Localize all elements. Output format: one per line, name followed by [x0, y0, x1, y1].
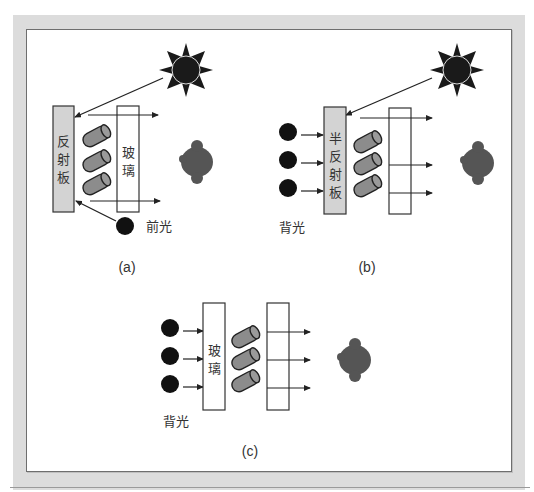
glass-label-1: 玻	[122, 145, 135, 160]
back-light-source-icon	[161, 347, 179, 365]
glass-label-2: 璃	[122, 163, 135, 178]
back-light-source-icon	[161, 319, 179, 337]
viewer-head-icon	[337, 338, 371, 382]
panel-b: 半 反 射 板 背光 (b)	[279, 43, 494, 275]
panel-c: 玻 璃 背光 (c)	[161, 303, 371, 459]
front-light-ray	[76, 201, 116, 221]
liquid-crystal-molecule-icon	[229, 324, 261, 350]
viewer-head-icon	[179, 140, 213, 184]
glass-plate	[389, 108, 411, 214]
liquid-crystal-molecule-icon	[351, 173, 383, 199]
liquid-crystal-molecule-icon	[80, 171, 112, 197]
sun-icon	[430, 43, 484, 97]
liquid-crystal-molecule-icon	[229, 346, 261, 372]
back-light-label: 背光	[163, 414, 189, 429]
reflector-label-3: 板	[57, 170, 70, 185]
liquid-crystal-molecule-icon	[80, 148, 112, 174]
back-light-source-icon	[279, 123, 297, 141]
back-light-source-icon	[279, 151, 297, 169]
caption-c: (c)	[242, 443, 258, 459]
reflector-label-1: 反	[57, 134, 70, 149]
glass-label-2: 璃	[208, 361, 221, 376]
viewer-head-icon	[460, 141, 494, 185]
back-light-source-icon	[161, 375, 179, 393]
lcd-lighting-diagram: 反 射 板 玻 璃 前光 (a) 半 反 射 板	[0, 0, 534, 492]
liquid-crystal-molecule-icon	[80, 123, 112, 149]
caption-a: (a)	[118, 259, 135, 275]
caption-b: (b)	[358, 259, 375, 275]
sun-icon	[159, 43, 213, 97]
front-light-label: 前光	[146, 219, 172, 234]
transflector-label-3: 射	[329, 167, 342, 182]
liquid-crystal-molecule-icon	[351, 129, 383, 155]
panel-a: 反 射 板 玻 璃 前光 (a)	[53, 43, 213, 275]
transflector-label-4: 板	[329, 185, 342, 200]
glass-plate	[267, 303, 289, 410]
glass-label-1: 玻	[208, 343, 221, 358]
liquid-crystal-molecule-icon	[351, 151, 383, 177]
back-light-label: 背光	[279, 220, 305, 235]
transflector-label-2: 反	[329, 149, 342, 164]
front-light-source-icon	[116, 217, 134, 235]
reflector-label-2: 射	[57, 152, 70, 167]
back-light-source-icon	[279, 179, 297, 197]
liquid-crystal-molecule-icon	[229, 368, 261, 394]
transflector-label-1: 半	[329, 131, 342, 146]
